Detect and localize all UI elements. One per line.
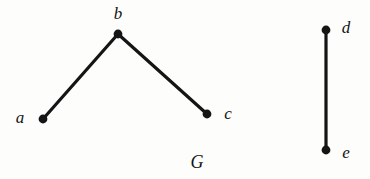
graph-figure: abcde G <box>0 0 370 179</box>
graph-vertex-e <box>322 146 331 155</box>
graph-edge-ab <box>43 34 118 119</box>
graph-vertex-a <box>39 115 48 124</box>
graph-name-label: G <box>191 153 204 171</box>
vertex-label-d: d <box>342 19 351 36</box>
vertex-label-b: b <box>114 5 123 22</box>
vertices-group <box>39 26 331 155</box>
vertex-label-a: a <box>16 109 25 126</box>
graph-edge-bc <box>118 34 207 114</box>
vertex-label-c: c <box>224 105 232 122</box>
vertex-label-e: e <box>342 144 350 161</box>
graph-canvas <box>0 0 370 179</box>
edges-group <box>43 30 326 150</box>
graph-vertex-d <box>322 26 331 35</box>
graph-vertex-c <box>203 110 212 119</box>
graph-vertex-b <box>114 30 123 39</box>
